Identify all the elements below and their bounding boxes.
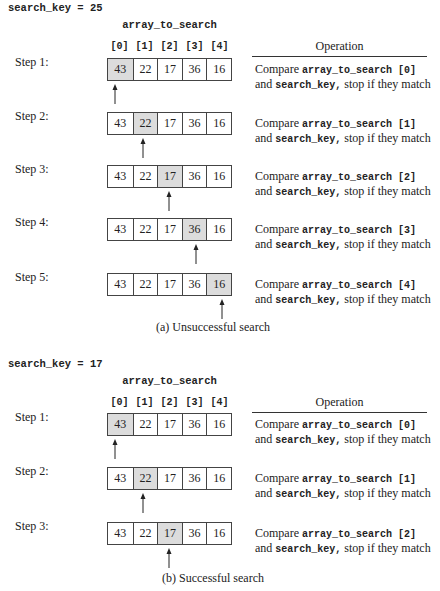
- step-row: Step 2: 43 22 17 36 16 Compare array_to_…: [0, 112, 440, 162]
- array-cell-highlighted: 16: [206, 274, 231, 295]
- array-box: 43 22 17 36 16: [107, 522, 232, 545]
- index-label: [4]: [207, 396, 232, 410]
- pointer-arrow-icon: [111, 439, 119, 459]
- code-key: search_key,: [275, 435, 341, 446]
- array-cell-highlighted: 22: [133, 468, 158, 489]
- array-box: 43 22 17 36 16: [107, 467, 232, 490]
- code-element: array_to_search [1]: [302, 474, 416, 485]
- array-cell: 36: [182, 414, 207, 435]
- array-name-label: array_to_search: [107, 18, 232, 32]
- code-key: search_key,: [275, 489, 341, 500]
- panel-successful-search: search_key = 17 array_to_search [0] [1] …: [0, 356, 440, 591]
- array-cell: 17: [157, 274, 182, 295]
- array-cell: 16: [206, 113, 231, 134]
- step-label: Step 2:: [15, 109, 49, 123]
- step-row: Step 4: 43 22 17 36 16 Compare array_to_…: [0, 218, 440, 268]
- array-cell: 17: [157, 468, 182, 489]
- operation-text: Compare array_to_search [1] and search_k…: [255, 472, 431, 501]
- array-cell: 17: [157, 414, 182, 435]
- array-cell-highlighted: 43: [108, 59, 133, 80]
- code-key: search_key,: [275, 187, 341, 198]
- code-element: array_to_search [0]: [302, 65, 416, 76]
- code-element: array_to_search [4]: [302, 280, 416, 291]
- pointer-arrow-icon: [192, 244, 200, 264]
- code-element: array_to_search [2]: [302, 172, 416, 183]
- array-box: 43 22 17 36 16: [107, 273, 232, 296]
- index-label: [1]: [132, 396, 157, 410]
- array-cell: 36: [182, 59, 207, 80]
- step-label: Step 4:: [15, 215, 49, 229]
- array-cell: 16: [206, 523, 231, 544]
- array-cell: 22: [133, 59, 158, 80]
- array-cell: 17: [157, 113, 182, 134]
- operation-header: Operation: [252, 395, 427, 409]
- step-row: Step 1: 43 22 17 36 16 Compare array_to_…: [0, 413, 440, 463]
- search-key-label: search_key = 25: [8, 1, 103, 15]
- step-label: Step 1:: [15, 410, 49, 424]
- array-cell: 22: [133, 219, 158, 240]
- step-row: Step 5: 43 22 17 36 16 Compare array_to_…: [0, 273, 440, 323]
- index-labels: [0] [1] [2] [3] [4]: [107, 396, 232, 410]
- pointer-arrow-icon: [139, 138, 147, 158]
- array-cell-highlighted: 17: [157, 523, 182, 544]
- step-row: Step 3: 43 22 17 36 16 Compare array_to_…: [0, 165, 440, 215]
- index-label: [0]: [107, 396, 132, 410]
- index-label: [1]: [132, 40, 157, 54]
- index-label: [2]: [157, 396, 182, 410]
- step-row: Step 1: 43 22 17 36 16 Compare array_to_…: [0, 58, 440, 108]
- operation-text: Compare array_to_search [0] and search_k…: [255, 418, 431, 447]
- pointer-arrow-icon: [139, 493, 147, 513]
- array-cell: 43: [108, 219, 133, 240]
- array-cell-highlighted: 36: [182, 219, 207, 240]
- pointer-arrow-icon: [165, 191, 173, 211]
- index-label: [3]: [182, 396, 207, 410]
- operation-text: Compare array_to_search [2] and search_k…: [255, 170, 431, 199]
- code-element: array_to_search [1]: [302, 119, 416, 130]
- array-cell: 16: [206, 166, 231, 187]
- code-element: array_to_search [3]: [302, 225, 416, 236]
- code-element: array_to_search [0]: [302, 420, 416, 431]
- array-cell: 17: [157, 59, 182, 80]
- step-label: Step 2:: [15, 464, 49, 478]
- array-cell: 16: [206, 414, 231, 435]
- array-cell: 17: [157, 219, 182, 240]
- figure-caption: (b) Successful search: [0, 571, 426, 585]
- array-cell: 36: [182, 468, 207, 489]
- array-cell: 22: [133, 414, 158, 435]
- step-row: Step 3: 43 22 17 36 16 Compare array_to_…: [0, 522, 440, 572]
- step-row: Step 2: 43 22 17 36 16 Compare array_to_…: [0, 467, 440, 517]
- array-cell: 43: [108, 113, 133, 134]
- code-key: search_key,: [275, 80, 341, 91]
- search-key-label: search_key = 17: [8, 357, 103, 371]
- index-label: [0]: [107, 40, 132, 54]
- array-cell: 22: [133, 274, 158, 295]
- array-cell-highlighted: 17: [157, 166, 182, 187]
- pointer-arrow-icon: [218, 299, 226, 319]
- operation-header: Operation: [252, 39, 427, 53]
- figure-caption: (a) Unsuccessful search: [0, 320, 426, 334]
- operation-text: Compare array_to_search [3] and search_k…: [255, 223, 431, 252]
- operation-text: Compare array_to_search [0] and search_k…: [255, 63, 431, 92]
- array-cell: 22: [133, 166, 158, 187]
- array-name-label: array_to_search: [107, 374, 232, 388]
- code-key: search_key,: [275, 240, 341, 251]
- array-cell-highlighted: 43: [108, 414, 133, 435]
- step-label: Step 5:: [15, 270, 49, 284]
- code-key: search_key,: [275, 544, 341, 555]
- index-labels: [0] [1] [2] [3] [4]: [107, 40, 232, 54]
- array-cell: 36: [182, 274, 207, 295]
- array-cell: 43: [108, 523, 133, 544]
- operation-text: Compare array_to_search [2] and search_k…: [255, 527, 431, 556]
- array-box: 43 22 17 36 16: [107, 165, 232, 188]
- operation-text: Compare array_to_search [1] and search_k…: [255, 117, 431, 146]
- array-cell: 16: [206, 59, 231, 80]
- array-box: 43 22 17 36 16: [107, 112, 232, 135]
- array-cell: 36: [182, 113, 207, 134]
- array-cell-highlighted: 22: [133, 113, 158, 134]
- step-label: Step 3:: [15, 162, 49, 176]
- array-cell: 22: [133, 523, 158, 544]
- pointer-arrow-icon: [165, 548, 173, 568]
- code-element: array_to_search [2]: [302, 529, 416, 540]
- code-key: search_key,: [275, 295, 341, 306]
- array-cell: 43: [108, 166, 133, 187]
